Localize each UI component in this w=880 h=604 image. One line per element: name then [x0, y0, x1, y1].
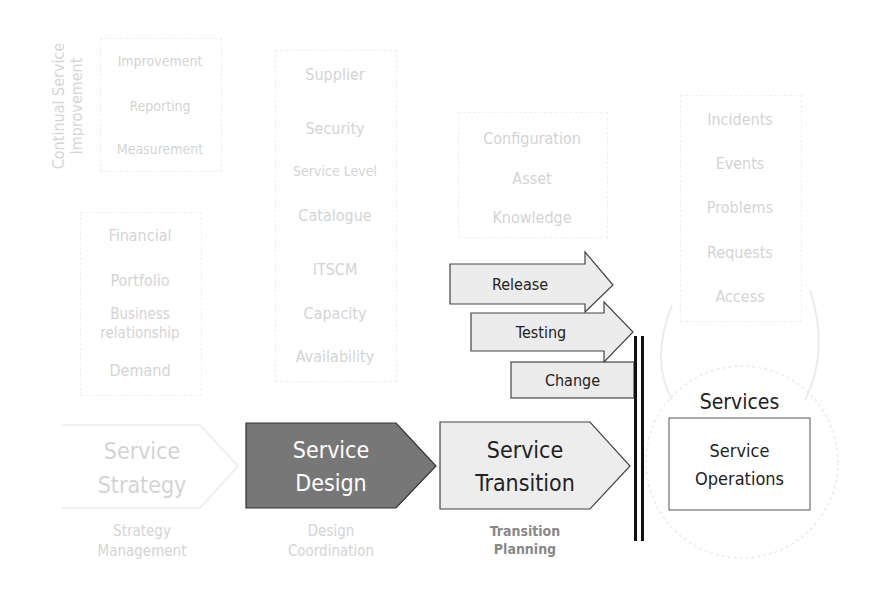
design-item-capacity: Capacity — [275, 304, 395, 323]
design-item-itscm: ITSCM — [275, 260, 395, 279]
service-transition-title-line2: Transition — [440, 470, 610, 496]
service-strategy-title-line1: Service — [62, 438, 222, 464]
design-item-availability: Availability — [275, 347, 395, 366]
transition-item-configuration: Configuration — [458, 129, 606, 148]
csi-item-reporting: Reporting — [100, 98, 220, 114]
csi-title-line2: Improvement — [68, 31, 86, 181]
transition-item-asset: Asset — [458, 169, 606, 188]
csi-title-line1: Continual Service — [50, 31, 68, 181]
testing-label: Testing — [471, 323, 611, 342]
strategy-item-relationship: relationship — [80, 324, 200, 342]
csi-item-measurement: Measurement — [100, 141, 220, 157]
change-label: Change — [511, 371, 634, 390]
service-design-title-line2: Design — [246, 470, 416, 496]
strategy-item-business: Business — [80, 305, 200, 323]
design-item-catalogue: Catalogue — [275, 206, 395, 225]
strategy-item-financial: Financial — [80, 226, 200, 245]
ops-item-access: Access — [680, 287, 800, 306]
services-label: Services — [669, 390, 810, 414]
barrier-line-1 — [634, 336, 637, 541]
service-operations-title-line2: Operations — [669, 468, 810, 489]
csi-item-improvement: Improvement — [100, 53, 220, 69]
ops-curve-right — [805, 290, 819, 400]
design-coordination-line2: Coordination — [246, 542, 416, 560]
ops-curve-left — [661, 305, 672, 400]
design-coordination-line1: Design — [246, 522, 416, 540]
strategy-item-portfolio: Portfolio — [80, 271, 200, 290]
design-item-security: Security — [275, 119, 395, 138]
ops-item-events: Events — [680, 154, 800, 173]
service-operations-box — [669, 418, 810, 510]
service-operations-title-line1: Service — [669, 440, 810, 461]
service-transition-title-line1: Service — [440, 437, 610, 463]
design-item-supplier: Supplier — [275, 65, 395, 84]
strategy-management-line2: Management — [62, 542, 222, 560]
strategy-item-demand: Demand — [80, 361, 200, 380]
service-design-title-line1: Service — [246, 437, 416, 463]
transition-planning-line2: Planning — [440, 541, 610, 557]
strategy-management-line1: Strategy — [62, 522, 222, 540]
design-item-service-level: Service Level — [275, 163, 395, 179]
csi-vertical-title: Continual Service Improvement — [38, 30, 98, 180]
transition-item-knowledge: Knowledge — [458, 208, 606, 227]
transition-planning-line1: Transition — [440, 523, 610, 539]
ops-item-incidents: Incidents — [680, 110, 800, 129]
barrier-line-2 — [641, 336, 644, 541]
service-strategy-title-line2: Strategy — [62, 472, 222, 498]
ops-item-requests: Requests — [680, 243, 800, 262]
release-label: Release — [450, 275, 590, 294]
ops-item-problems: Problems — [680, 198, 800, 217]
